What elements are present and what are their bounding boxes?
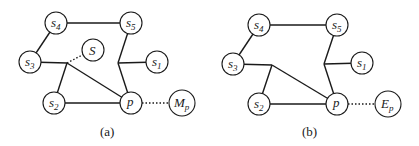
- node-p: p: [120, 92, 142, 114]
- node-p: p: [326, 93, 348, 115]
- node-s1: s1: [351, 52, 373, 74]
- node-s5: s5: [120, 12, 142, 34]
- node-s3: s3: [222, 53, 244, 75]
- diagram-b: s4 s5 s3 s1 s2 p Ep (b): [222, 14, 401, 139]
- svg-text:p: p: [332, 95, 340, 110]
- node-s5: s5: [326, 14, 348, 36]
- svg-text:S: S: [89, 43, 96, 58]
- node-Ep: Ep: [375, 91, 401, 117]
- node-s4: s4: [248, 14, 270, 36]
- node-S: S: [82, 39, 104, 61]
- node-s2: s2: [43, 92, 65, 114]
- node-Mp: Mp: [169, 90, 195, 116]
- caption-b: (b): [302, 124, 317, 139]
- node-s4: s4: [45, 12, 67, 34]
- node-s1: s1: [146, 51, 168, 73]
- diagram-a: s4 s5 s3 S s1 s2 p Mp (a): [19, 12, 195, 139]
- network-diagrams: s4 s5 s3 S s1 s2 p Mp (a): [0, 0, 419, 146]
- node-s2: s2: [248, 93, 270, 115]
- caption-a: (a): [100, 124, 114, 139]
- svg-text:p: p: [126, 94, 134, 109]
- node-s3: s3: [19, 51, 41, 73]
